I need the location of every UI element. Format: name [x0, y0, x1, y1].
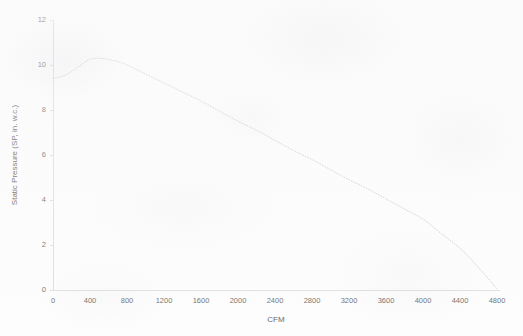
- x-axis-tick-labels: 0400800120016002000240028003200360040004…: [51, 296, 505, 305]
- y-axis-tick-label: 10: [38, 60, 46, 69]
- x-axis-title: CFM: [267, 315, 285, 324]
- x-axis-tick-label: 1600: [193, 296, 210, 305]
- x-axis-tick-label: 2000: [230, 296, 247, 305]
- x-axis-tick-label: 1200: [156, 296, 173, 305]
- y-axis-tick-label: 4: [42, 195, 46, 204]
- x-axis-tick-label: 3600: [378, 296, 395, 305]
- static-pressure-vs-cfm-chart: 024681012 040080012001600200024002800320…: [0, 0, 523, 336]
- x-axis-tick-label: 2400: [267, 296, 284, 305]
- y-axis-tick-label: 8: [42, 105, 46, 114]
- y-axis-tick-label: 6: [42, 150, 46, 159]
- x-axis-tick-label: 400: [84, 296, 97, 305]
- x-axis-tick-label: 4000: [415, 296, 432, 305]
- x-axis-tick-label: 0: [51, 296, 55, 305]
- chart-container: 024681012 040080012001600200024002800320…: [0, 0, 523, 336]
- x-axis-tick-label: 4800: [489, 296, 506, 305]
- y-axis-tick-label: 0: [42, 285, 46, 294]
- x-axis-tick-label: 3200: [341, 296, 358, 305]
- x-axis-tick-label: 4400: [452, 296, 469, 305]
- y-axis-tick-label: 2: [42, 240, 46, 249]
- y-axis-title: Static Pressure (SP, in. w.c.): [10, 105, 19, 206]
- static-pressure-curve: [53, 58, 497, 289]
- y-axis-tick-labels: 024681012: [38, 15, 46, 294]
- x-axis-tick-label: 2800: [304, 296, 321, 305]
- x-axis-tick-label: 800: [121, 296, 134, 305]
- y-axis-tick-label: 12: [38, 15, 46, 24]
